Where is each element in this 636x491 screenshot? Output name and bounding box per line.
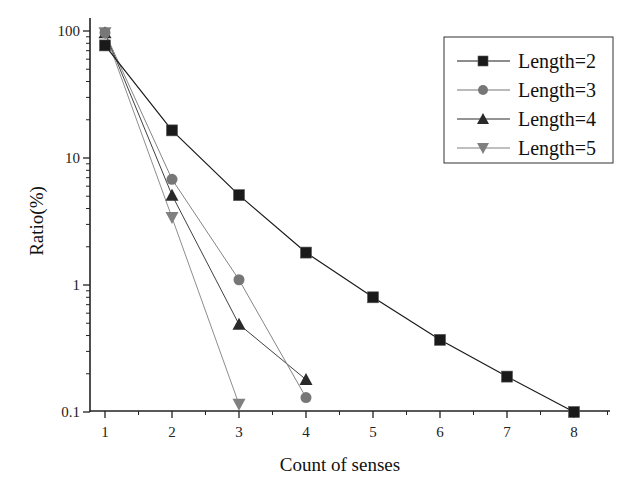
circle-marker bbox=[478, 85, 488, 95]
triangle-down-marker bbox=[233, 399, 246, 411]
series-length-4 bbox=[99, 26, 313, 385]
square-marker bbox=[569, 407, 580, 418]
y-axis-title: Ratio(%) bbox=[26, 186, 48, 256]
y-tick-label: 100 bbox=[58, 23, 81, 39]
legend-label: Length=5 bbox=[518, 137, 596, 160]
square-marker bbox=[435, 334, 446, 345]
x-tick-label: 3 bbox=[235, 424, 243, 440]
x-tick-label: 4 bbox=[302, 424, 310, 440]
square-marker bbox=[301, 247, 312, 258]
square-marker bbox=[368, 292, 379, 303]
x-tick-label: 6 bbox=[436, 424, 444, 440]
square-marker bbox=[167, 125, 178, 136]
x-tick-label: 2 bbox=[168, 424, 176, 440]
legend-label: Length=3 bbox=[518, 79, 596, 102]
circle-marker bbox=[301, 392, 312, 403]
triangle-up-marker bbox=[300, 373, 313, 385]
x-tick-label: 5 bbox=[369, 424, 377, 440]
square-marker bbox=[234, 190, 245, 201]
x-tick-label: 7 bbox=[503, 424, 511, 440]
line-chart: 0.111010012345678 Length=2Length=3Length… bbox=[0, 0, 636, 491]
square-marker bbox=[100, 40, 111, 51]
legend-label: Length=2 bbox=[518, 50, 596, 73]
x-axis-title: Count of senses bbox=[280, 454, 400, 475]
square-marker bbox=[478, 56, 488, 66]
square-marker bbox=[502, 371, 513, 382]
x-tick-label: 8 bbox=[570, 424, 578, 440]
y-tick-label: 0.1 bbox=[61, 404, 80, 420]
circle-marker bbox=[234, 274, 245, 285]
triangle-up-marker bbox=[233, 318, 246, 330]
legend: Length=2Length=3Length=4Length=5 bbox=[444, 37, 613, 163]
y-tick-label: 10 bbox=[65, 150, 80, 166]
y-tick-label: 1 bbox=[73, 277, 81, 293]
series-length-5 bbox=[99, 27, 246, 411]
series-length-3 bbox=[100, 27, 312, 403]
circle-marker bbox=[167, 174, 178, 185]
circle-marker bbox=[100, 27, 111, 38]
x-tick-label: 1 bbox=[101, 424, 109, 440]
triangle-down-marker bbox=[166, 212, 179, 224]
legend-label: Length=4 bbox=[518, 108, 596, 131]
triangle-up-marker bbox=[166, 189, 179, 201]
